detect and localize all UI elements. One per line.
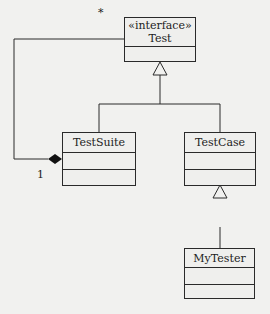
class-test[interactable]: «interface» Test — [124, 17, 196, 62]
multiplicity-many: * — [98, 6, 104, 19]
composition-diamond-icon — [48, 154, 62, 164]
class-name: TestCase — [185, 133, 255, 152]
attributes-section — [185, 152, 255, 169]
operations-section — [185, 169, 255, 185]
class-name: MyTester — [185, 249, 254, 267]
multiplicity-one: 1 — [37, 168, 44, 181]
attributes-section — [63, 152, 135, 169]
attributes-section — [125, 46, 195, 62]
generalization-arrow-icon — [153, 62, 167, 75]
class-name: TestSuite — [63, 133, 135, 152]
attributes-section — [185, 267, 254, 284]
class-mytester[interactable]: MyTester — [184, 248, 255, 299]
class-testcase[interactable]: TestCase — [184, 132, 256, 186]
operations-section — [185, 284, 254, 298]
stereotype-label: «interface» — [125, 19, 195, 32]
generalization-arrow-icon — [213, 185, 227, 198]
class-name: Test — [125, 32, 195, 45]
class-testsuite[interactable]: TestSuite — [62, 132, 136, 186]
operations-section — [63, 169, 135, 185]
